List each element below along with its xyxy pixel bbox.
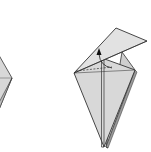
origami-diagram [0, 0, 151, 152]
previous-step-shape [0, 50, 12, 112]
